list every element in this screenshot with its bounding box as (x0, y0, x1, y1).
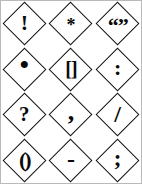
diamond-grid: ! * “” • [] (1, 1, 141, 183)
diamond-brackets-icon: [] (49, 47, 93, 91)
grid-cell: : (94, 47, 141, 93)
grid-cell: [] (48, 47, 95, 93)
diamond-asterisk-icon: * (49, 2, 93, 46)
grid-cell: () (1, 138, 48, 184)
diamond-quotation-icon: “” (96, 2, 140, 46)
glyph-colon: : (114, 57, 121, 79)
glyph-semicolon: ; (114, 147, 122, 170)
glyph-period-dot: • (20, 52, 29, 78)
grid-cell: ? (1, 92, 48, 138)
diamond-question-icon: ? (2, 93, 46, 137)
diamond-parentheses-icon: () (2, 138, 46, 182)
diamond-semicolon-icon: ; (96, 138, 140, 182)
glyph-forward-slash: / (114, 102, 121, 126)
glyph-hyphen-dash: - (67, 147, 75, 171)
glyph-double-quotation-marks: “” (108, 15, 128, 37)
diamond-hyphen-icon: - (49, 138, 93, 182)
glyph-question-mark: ? (19, 104, 30, 125)
grid-cell: “” (94, 1, 141, 47)
grid-cell: ! (1, 1, 48, 47)
grid-cell: - (48, 138, 95, 184)
glyph-exclamation-mark: ! (21, 12, 28, 34)
grid-cell: / (94, 92, 141, 138)
glyph-parentheses: () (19, 149, 30, 171)
grid-cell: ; (94, 138, 141, 184)
grid-cell: • (1, 47, 48, 93)
diamond-exclamation-icon: ! (2, 2, 46, 46)
diamond-period-icon: • (2, 47, 46, 91)
diamond-slash-icon: / (96, 93, 140, 137)
grid-cell: * (48, 1, 95, 47)
diamond-comma-icon: , (49, 93, 93, 137)
glyph-comma: , (68, 99, 75, 125)
glyph-square-brackets: [] (65, 59, 76, 79)
glyph-asterisk: * (66, 16, 75, 34)
grid-cell: , (48, 92, 95, 138)
diamond-colon-icon: : (96, 47, 140, 91)
punctuation-diamond-sheet: ! * “” • [] (0, 0, 142, 184)
